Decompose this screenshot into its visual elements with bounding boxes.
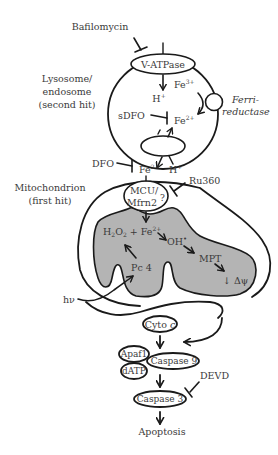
arrow-h-into-lysosome <box>168 128 172 137</box>
pc4-label: Pc 4 <box>131 262 152 273</box>
transporter-tick <box>158 130 160 134</box>
caspase9-node: Caspase 9 <box>147 353 199 369</box>
dfo-inhibition-line <box>117 160 132 172</box>
sdfo-inhibition-line <box>151 112 167 124</box>
sdfo-label: sDFO <box>118 110 145 121</box>
lysosome-label-2: endosome <box>43 86 92 97</box>
mitochondrion-label-2: (first hit) <box>29 195 72 206</box>
mitochondrion-label-1: Mitochondrion <box>14 182 85 193</box>
apoptosis-pathway-diagram: Bafilomycin V-ATPase H+ Fe3+ Ferri- redu… <box>0 0 278 455</box>
lysosome-iron-transporter <box>141 136 185 156</box>
apaf1-node: Apaf1 <box>119 346 149 362</box>
bafilomycin-label: Bafilomycin <box>72 21 129 32</box>
caspase9-label: Caspase 9 <box>151 356 198 366</box>
ru360-label: Ru360 <box>189 175 220 186</box>
arrow-to-cyto-c <box>184 318 222 342</box>
bafilomycin-inhibition-line <box>134 38 147 52</box>
datp-label: dATP <box>122 366 146 376</box>
mcu-question-mark: ? <box>160 193 165 203</box>
mfrn2-label: Mfrn2 <box>127 197 157 208</box>
apaf1-label: Apaf1 <box>120 349 148 359</box>
ru360-inhibition-line <box>170 183 185 196</box>
apoptosis-label: Apoptosis <box>137 426 185 437</box>
cytosol-fe2: Fe2+ <box>139 163 160 175</box>
dfo-label: DFO <box>92 158 114 169</box>
caspase3-node: Caspase 3 <box>134 391 186 407</box>
devd-inhibition-line <box>185 382 199 397</box>
lysosome-fe3: Fe3+ <box>174 78 195 90</box>
mpt-label: MPT <box>199 253 222 264</box>
cyto-c-label: Cyto c <box>145 319 176 330</box>
mcu-mfrn2-node: MCU/ Mfrn2 ? <box>124 181 168 211</box>
lysosome-h-plus: H+ <box>152 92 165 104</box>
lysosome-label-1: Lysosome/ <box>42 73 93 84</box>
h-plus-tick <box>169 156 173 164</box>
ferrireductase-label-1: Ferri- <box>231 94 259 105</box>
caspase3-label: Caspase 3 <box>137 394 184 404</box>
devd-label: DEVD <box>200 370 229 381</box>
arrow-fe3-to-fe2 <box>198 93 203 114</box>
ferrireductase-node <box>206 94 223 111</box>
datp-node: dATP <box>121 363 147 379</box>
hv-label: hν <box>63 294 75 305</box>
v-atpase-node: V-ATPase <box>131 54 195 74</box>
lysosome-fe2: Fe2+ <box>174 114 195 126</box>
mcu-label: MCU/ <box>130 185 159 196</box>
lysosome-label-3: (second hit) <box>38 99 95 110</box>
delta-psi-label: ↓ Δψ <box>223 275 248 286</box>
v-atpase-label: V-ATPase <box>140 59 185 70</box>
cytosol-h-plus: H+ <box>169 163 182 175</box>
ferrireductase-label-2: reductase <box>222 106 270 117</box>
